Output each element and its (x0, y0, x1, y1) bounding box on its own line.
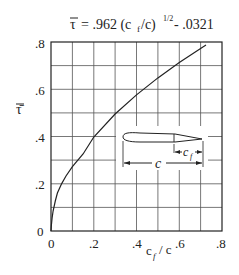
x-tick: 0 (48, 236, 55, 251)
flap-chord-label: c (183, 145, 189, 159)
x-label-c: c (146, 243, 152, 258)
x-axis-label: c f / c (146, 242, 172, 261)
y-tick: .4 (35, 130, 45, 145)
y-tick: .6 (35, 83, 45, 98)
y-tick: 0 (37, 224, 44, 239)
y-axis-label: τ̄ (16, 102, 25, 117)
chart: τ = .962 (c f /c) 1/2 - .0321 (0, 0, 239, 275)
y-tick: .8 (35, 36, 45, 51)
title-eq: = .962 (c (81, 17, 131, 33)
title-tail: - .0321 (174, 17, 214, 32)
y-tick: .2 (35, 177, 45, 192)
airfoil-inset: c f c (116, 126, 208, 171)
x-tick: .8 (216, 236, 226, 251)
x-tick: .6 (175, 236, 185, 251)
y-axis-ticks: .8 .6 .4 .2 0 (35, 36, 45, 239)
x-axis-ticks: 0 .2 .4 .6 .8 (48, 236, 226, 251)
chart-title: τ = .962 (c f /c) 1/2 - .0321 (70, 14, 214, 34)
title-lhs: τ (70, 17, 76, 32)
x-label-rest: / c (159, 242, 172, 257)
x-tick: .2 (89, 236, 99, 251)
x-tick: .4 (132, 236, 142, 251)
title-sup: 1/2 (163, 14, 173, 23)
x-label-sub: f (153, 251, 157, 261)
title-mid: /c) (141, 17, 156, 33)
chord-label: c (155, 156, 162, 171)
title-sub: f (137, 24, 140, 34)
